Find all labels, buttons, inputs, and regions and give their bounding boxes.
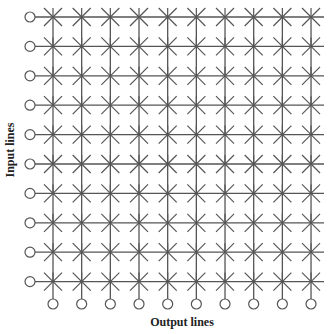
input-terminal-icon [25, 159, 35, 169]
input-terminal-icon [25, 100, 35, 110]
input-terminal-icon [25, 41, 35, 51]
output-terminal-icon [249, 299, 259, 309]
input-terminal-icon [25, 12, 35, 22]
input-terminal-icon [25, 71, 35, 81]
output-terminal-icon [134, 299, 144, 309]
input-terminal-icon [25, 130, 35, 140]
output-terminal-icon [191, 299, 201, 309]
crossbar-diagram: Input lines Output lines [0, 0, 332, 334]
output-terminal-icon [220, 299, 230, 309]
input-terminal-icon [25, 218, 35, 228]
crossbar-grid [25, 8, 324, 309]
output-terminal-icon [48, 299, 58, 309]
output-lines-label: Output lines [150, 315, 214, 329]
output-terminal-icon [277, 299, 287, 309]
output-terminal-icon [77, 299, 87, 309]
input-terminal-icon [25, 277, 35, 287]
output-terminal-icon [306, 299, 316, 309]
output-terminal-icon [105, 299, 115, 309]
output-terminal-icon [163, 299, 173, 309]
input-terminal-icon [25, 188, 35, 198]
input-lines-label: Input lines [3, 122, 17, 177]
input-terminal-icon [25, 247, 35, 257]
